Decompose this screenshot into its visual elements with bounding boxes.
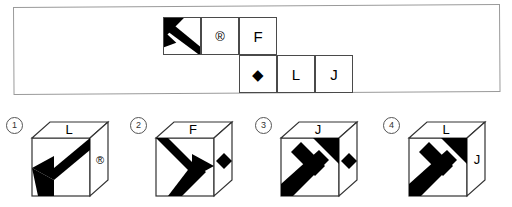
answer-option-4[interactable]: 4 L J (381, 112, 503, 207)
option-number-2: 2 (130, 117, 147, 134)
cube-top-label-4: L (442, 122, 449, 137)
option-number-4: 4 (383, 117, 400, 134)
cube-right-label-4: J (474, 152, 481, 167)
option-number-3: 3 (255, 117, 272, 134)
net-cell-registered: ® (201, 17, 239, 55)
cube-net: ® F ◆ L J (163, 17, 323, 93)
cube-illustration-4: L J (401, 116, 501, 204)
cube-icon: F (148, 116, 248, 204)
answer-option-3[interactable]: 3 J (253, 112, 375, 207)
cube-icon: J (273, 116, 373, 204)
cube-top-label-1: L (65, 122, 72, 137)
net-cell-arrow (163, 17, 201, 55)
letter-f-icon: F (253, 29, 262, 44)
cube-icon: L J (401, 116, 501, 204)
letter-j-icon: J (330, 67, 338, 82)
arrow-up-left-icon (164, 18, 200, 54)
letter-l-icon: L (292, 67, 300, 82)
cube-illustration-2: F (148, 116, 248, 204)
cube-top-label-2: F (189, 122, 197, 137)
net-cell-diamond: ◆ (239, 55, 277, 93)
cube-top-label-3: J (315, 122, 322, 137)
net-cell-letter-j: J (315, 55, 353, 93)
cube-illustration-1: L ® (24, 116, 124, 204)
cube-icon: L ® (24, 116, 124, 204)
answer-option-2[interactable]: 2 F (128, 112, 250, 207)
answer-option-1[interactable]: 1 L ® (4, 112, 126, 207)
net-cell-letter-l: L (277, 55, 315, 93)
black-diamond-icon: ◆ (252, 67, 264, 82)
answer-options-row: 1 L ® 2 (0, 112, 512, 207)
net-cell-letter-f: F (239, 17, 277, 55)
option-number-1: 1 (6, 117, 23, 134)
cube-right-label-1: ® (96, 154, 104, 166)
registered-trademark-icon: ® (215, 30, 225, 43)
cube-illustration-3: J (273, 116, 373, 204)
